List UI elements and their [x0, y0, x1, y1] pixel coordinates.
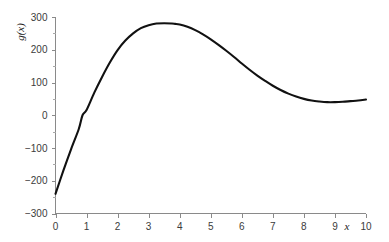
- chart-figure: −300−200−1000100200300 012345678910 g(x)…: [0, 0, 389, 242]
- x-tick-label: 2: [115, 221, 121, 232]
- x-tick-label: 1: [84, 221, 90, 232]
- y-axis-title: g(x): [14, 23, 27, 41]
- y-tick-label: −100: [25, 143, 48, 154]
- x-tick-label: 5: [208, 221, 214, 232]
- x-axis-tick-labels: 012345678910: [53, 221, 372, 232]
- x-tick-label: 6: [239, 221, 245, 232]
- y-tick-label: 0: [42, 110, 48, 121]
- x-tick-label: 10: [360, 221, 372, 232]
- y-tick-label: 100: [31, 77, 48, 88]
- y-tick-label: −300: [25, 208, 48, 219]
- x-tick-label: 8: [301, 221, 307, 232]
- axes: [55, 17, 366, 214]
- line-chart: −300−200−1000100200300 012345678910 g(x)…: [0, 0, 389, 242]
- y-tick-label: −200: [25, 175, 48, 186]
- y-tick-label: 200: [31, 44, 48, 55]
- x-tick-label: 7: [270, 221, 276, 232]
- x-tick-label: 3: [146, 221, 152, 232]
- x-tick-label: 4: [177, 221, 183, 232]
- y-tick-label: 300: [31, 12, 48, 23]
- y-axis-tick-labels: −300−200−1000100200300: [25, 12, 48, 220]
- data-curve-g-of-x: [56, 23, 367, 194]
- x-axis-major-ticks: [57, 214, 367, 218]
- x-tick-label: 9: [332, 221, 338, 232]
- x-axis-title: x: [344, 220, 350, 232]
- x-tick-label: 0: [53, 221, 59, 232]
- y-axis-major-ticks: [52, 18, 56, 215]
